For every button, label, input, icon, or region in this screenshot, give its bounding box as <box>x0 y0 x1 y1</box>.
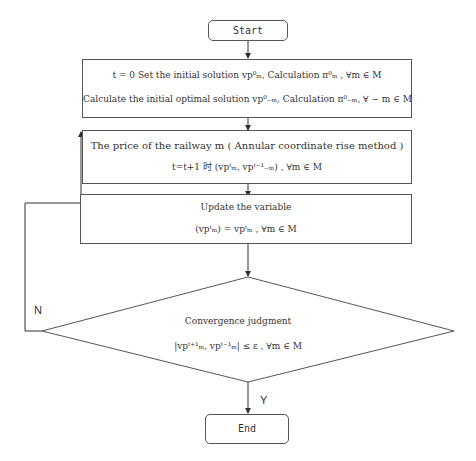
update-box: Update the variable (vpᵗₘ) = vpᵗₘ , ∀m ∈… <box>80 194 412 244</box>
init-line-1: t = 0 Set the initial solution vp⁰ₘ, Cal… <box>83 69 411 81</box>
price-line-1: The price of the railway m ( Annular coo… <box>83 140 411 152</box>
update-line-1: Update the variable <box>81 201 411 213</box>
price-line-2: t=t+1 时 (vpᵗₘ, vpᵗ⁻¹₋ₘ) , ∀m ∈ M <box>83 161 411 173</box>
init-line-2: Calculate the initial optimal solution v… <box>83 93 411 105</box>
price-box: The price of the railway m ( Annular coo… <box>82 130 412 184</box>
start-label: Start <box>209 25 287 37</box>
start-node: Start <box>208 20 288 41</box>
end-node: End <box>205 414 289 444</box>
yes-label: Y <box>260 394 267 406</box>
decision-diamond <box>42 277 454 382</box>
decision-line-2: |vpᵗ⁺¹ₘ, vpᵗ⁻¹ₘ| ≤ ε , ∀m ∈ M <box>0 340 476 352</box>
no-label: N <box>34 304 42 316</box>
end-label: End <box>206 423 288 435</box>
decision-line-1: Convergence judgment <box>0 315 476 327</box>
update-line-2: (vpᵗₘ) = vpᵗₘ , ∀m ∈ M <box>81 223 411 235</box>
init-box: t = 0 Set the initial solution vp⁰ₘ, Cal… <box>82 59 412 118</box>
